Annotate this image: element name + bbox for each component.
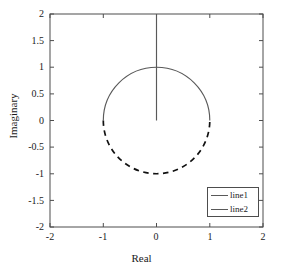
x-tick-label: 0 <box>144 232 168 242</box>
legend-swatch-line1 <box>211 195 228 196</box>
legend-label-line2: line2 <box>230 204 248 215</box>
x-tick-label: 1 <box>198 232 222 242</box>
y-tick-label: 0.5 <box>22 89 44 99</box>
legend-entry-line1[interactable]: line1 <box>208 188 260 203</box>
x-tick-label: -2 <box>38 232 62 242</box>
y-tick-label: -1 <box>22 169 44 179</box>
y-tick-label: 2 <box>22 9 44 19</box>
legend[interactable]: line1 line2 <box>207 187 259 217</box>
y-tick-label: -1.5 <box>22 196 44 206</box>
y-tick-label: 0 <box>22 116 44 126</box>
x-axis-label: Real <box>0 252 283 264</box>
legend-label-line1: line1 <box>230 190 248 201</box>
figure-canvas: 2 1.5 1 0.5 0 -0.5 -1 -1.5 -2 -2 -1 0 1 … <box>0 0 283 274</box>
legend-entry-line2[interactable]: line2 <box>208 202 260 217</box>
y-tick-label: -0.5 <box>22 142 44 152</box>
y-tick-label: -2 <box>22 222 44 232</box>
y-tick-label: 1 <box>22 62 44 72</box>
y-tick-label: 1.5 <box>22 36 44 46</box>
x-tick-label: -1 <box>91 232 115 242</box>
legend-swatch-line2 <box>211 209 228 210</box>
x-tick-label: 2 <box>251 232 275 242</box>
y-axis-label: Imaginary <box>7 76 19 156</box>
